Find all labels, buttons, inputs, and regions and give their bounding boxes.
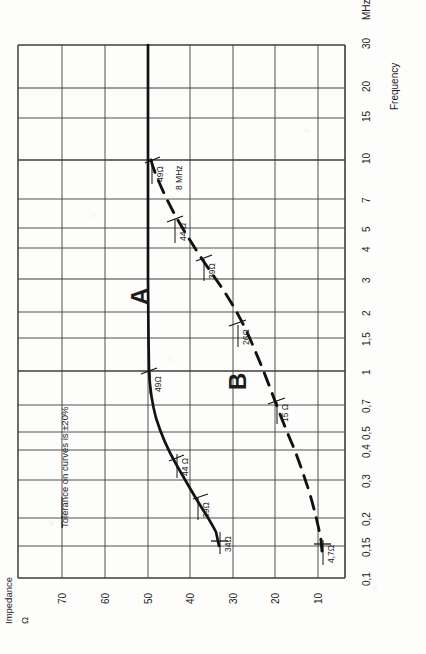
ytick-4: 4	[361, 246, 372, 252]
ytick-10: 10	[361, 152, 372, 164]
label-b-4-7: 4,7Ω	[326, 545, 336, 563]
svg-text:Tolerance on curves is ±20%: Tolerance on curves is ±20%	[59, 406, 70, 528]
label-a-44: 44 Ω	[180, 458, 190, 476]
svg-text:Impedance: Impedance	[3, 577, 14, 624]
label-b-44: 44 Ω	[178, 223, 188, 241]
xtick-30: 30	[228, 592, 239, 604]
ytick-0-4: 0,4	[361, 444, 372, 458]
ytick-1: 1	[361, 369, 372, 375]
ytick-3: 3	[361, 277, 372, 283]
ytick-0-3: 0,3	[361, 474, 372, 488]
ytick-1-5: 1,5	[361, 332, 372, 346]
xtick-50: 50	[143, 592, 154, 604]
impedance-axis-unit: Ω	[19, 617, 30, 624]
ytick-0-15: 0,15	[361, 537, 372, 557]
label-a-39: 39Ω	[201, 502, 211, 518]
ytick-30: 30	[361, 37, 372, 49]
xtick-40: 40	[185, 592, 196, 604]
xtick-10: 10	[313, 592, 324, 604]
ytick-2: 2	[361, 310, 372, 316]
impedance-axis-title: Impedance	[3, 577, 14, 624]
ytick-20: 20	[361, 80, 372, 92]
chart-svg: 49Ω 44 Ω 39Ω 34Ω 49Ω 44 Ω 39Ω	[0, 0, 426, 654]
ytick-7: 7	[361, 197, 372, 203]
label-b-15: 15 Ω	[280, 404, 290, 422]
label-b-39: 39Ω	[207, 263, 217, 279]
xtick-60: 60	[100, 592, 111, 604]
impedance-frequency-chart: 49Ω 44 Ω 39Ω 34Ω 49Ω 44 Ω 39Ω	[0, 0, 426, 654]
label-b-49: 49Ω	[155, 166, 165, 182]
ytick-0-7: 0,7	[361, 399, 372, 413]
svg-text:A: A	[126, 288, 153, 305]
svg-text:MHz: MHz	[361, 0, 372, 20]
frequency-axis-title: Frequency	[389, 63, 400, 110]
svg-text:Ω: Ω	[19, 617, 30, 624]
svg-text:B: B	[224, 373, 251, 390]
svg-text:Frequency: Frequency	[389, 63, 400, 110]
svg-text:8 MHz: 8 MHz	[174, 165, 184, 190]
tolerance-note: Tolerance on curves is ±20%	[59, 406, 70, 528]
ytick-0-1: 0,1	[361, 572, 372, 586]
annotation-8mhz: 8 MHz	[174, 165, 184, 190]
ytick-15: 15	[361, 110, 372, 122]
curve-b-letter: B	[224, 373, 251, 390]
xtick-20: 20	[270, 592, 281, 604]
curve-a-letter: A	[126, 288, 153, 305]
label-a-49: 49Ω	[153, 376, 163, 392]
ytick-0-2: 0,2	[361, 512, 372, 526]
ytick-5: 5	[361, 226, 372, 232]
label-b-26: 26Ω	[241, 329, 251, 345]
xtick-70: 70	[57, 592, 68, 604]
ytick-0-5: 0,5	[361, 426, 372, 440]
frequency-axis-unit: MHz	[361, 0, 372, 20]
label-a-34: 34Ω	[223, 536, 233, 552]
